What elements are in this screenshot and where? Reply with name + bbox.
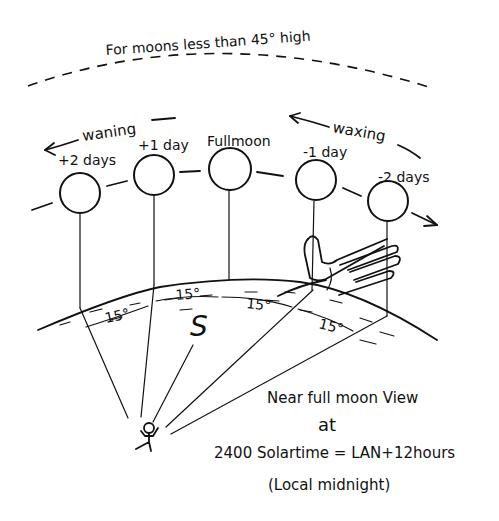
observer-figure [136, 423, 158, 451]
moon-label-minus1: -1 day [303, 144, 347, 160]
moon-minus2 [368, 181, 408, 221]
waxing-label: waxing [331, 118, 387, 145]
angle-label-1: 15° [103, 305, 131, 326]
caption-line-2: at [318, 414, 336, 435]
angle-label-3: 15° [246, 295, 272, 314]
moon-label-plus1: +1 day [138, 137, 189, 153]
moon-minus1 [296, 160, 336, 200]
angle-label-2: 15° [175, 285, 201, 303]
moon-phase-diagram: For moons less than 45° high waning waxi… [0, 0, 499, 521]
moon-full [209, 148, 251, 190]
moon-plus1 [134, 155, 174, 195]
south-symbol: S [190, 310, 208, 343]
moon-label-plus2: +2 days [58, 152, 116, 168]
moon-plus2 [60, 173, 100, 213]
caption-line-4: (Local midnight) [268, 476, 390, 494]
earth-horizon [38, 279, 437, 344]
angle-label-4: 15° [317, 315, 345, 337]
caption-line-1: Near full moon View [267, 389, 418, 407]
moon-label-full: Fullmoon [207, 133, 271, 149]
hand-measure-icon [278, 236, 400, 296]
waning-label: waning [81, 120, 137, 145]
caption-line-3: 2400 Solartime = LAN+12hours [214, 444, 455, 462]
45-degree-altitude-arc [28, 53, 432, 88]
